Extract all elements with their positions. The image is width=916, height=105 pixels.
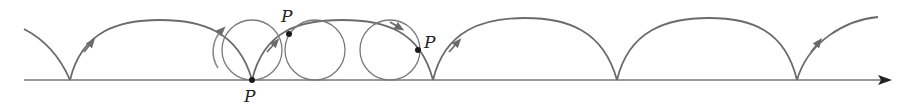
- point-label-top: P: [280, 6, 293, 26]
- point-label-right: P: [423, 32, 436, 52]
- cycloid-diagram: P P P: [0, 0, 916, 105]
- direction-arrow-icons: [84, 22, 819, 52]
- point-label-bottom: P: [243, 86, 256, 105]
- rolling-circle: [360, 20, 420, 80]
- rolling-circle: [222, 20, 282, 80]
- rolling-circles: [222, 20, 420, 80]
- rolling-circle: [285, 20, 345, 80]
- rotation-arrow-icon: [213, 30, 222, 68]
